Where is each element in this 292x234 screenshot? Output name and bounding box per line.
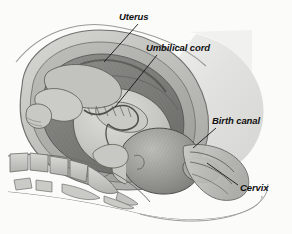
vertebra-2 [30,153,48,172]
fetal-position-diagram: Uterus Umbilical cord Birth canal Cervix [0,0,292,234]
label-birth-canal: Birth canal [212,116,260,126]
vertebra-1 [10,153,28,172]
label-umbilical-cord: Umbilical cord [146,43,210,53]
spinous-process-1 [14,178,32,190]
spinous-process-2 [36,180,52,192]
label-cervix: Cervix [240,183,268,193]
fetus-foot [26,104,52,128]
label-uterus: Uterus [119,12,149,22]
vertebra-3 [50,156,68,176]
